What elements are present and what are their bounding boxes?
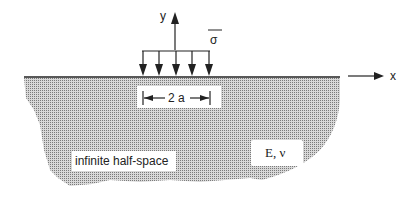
distributed-load	[139, 51, 213, 76]
half-space-diagram: x y σ 2 a infinite half-space E, ν	[0, 0, 414, 200]
x-axis-label: x	[390, 69, 396, 83]
load-label: σ	[210, 33, 218, 47]
y-axis-label: y	[160, 9, 166, 23]
region-label: infinite half-space	[75, 154, 169, 168]
x-axis-arrow	[348, 72, 384, 80]
width-label: 2 a	[168, 91, 185, 105]
material-label: E, ν	[265, 145, 285, 160]
y-axis-arrow	[171, 12, 179, 50]
